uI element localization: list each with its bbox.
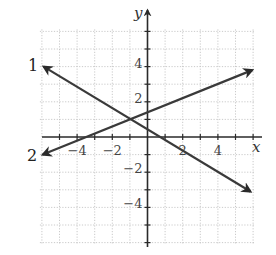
x-tick-label: −4	[68, 143, 87, 158]
y-tick-label: 4	[134, 56, 142, 71]
y-axis-label: y	[133, 4, 143, 22]
x-axis-label: x	[252, 138, 261, 156]
tick-labels: −4−22442−2−4	[68, 56, 223, 212]
line-2-label: 2	[27, 146, 37, 165]
y-tick-label: 2	[134, 91, 142, 106]
x-tick-label: −2	[103, 143, 122, 158]
x-tick-label: 4	[214, 143, 222, 158]
line-1-label: 1	[28, 56, 38, 75]
y-tick-label: −4	[123, 196, 142, 211]
coordinate-plane-chart: −4−22442−2−4 x y 1 2	[0, 0, 276, 255]
y-tick-label: −2	[123, 161, 142, 176]
